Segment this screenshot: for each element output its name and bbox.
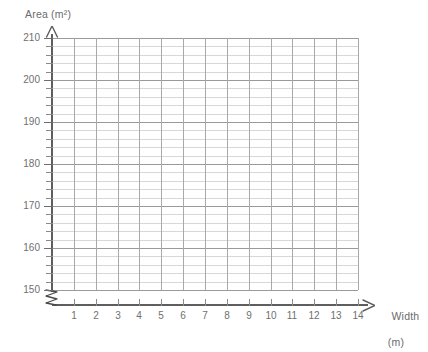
y-tick-minor xyxy=(46,265,53,266)
y-tick-minor xyxy=(46,72,53,73)
x-tick xyxy=(205,299,206,306)
y-tick-major xyxy=(44,248,53,249)
x-tick-label: 7 xyxy=(195,310,215,321)
x-axis-unit-text: (m) xyxy=(379,336,413,349)
x-axis-title-text: Width xyxy=(391,310,419,322)
y-tick-minor xyxy=(46,181,53,182)
y-tick-minor xyxy=(46,88,53,89)
y-tick-minor xyxy=(46,256,53,257)
x-tick-label: 12 xyxy=(304,310,324,321)
x-tick xyxy=(314,299,315,306)
plot-area xyxy=(52,38,358,290)
gridline-vertical xyxy=(314,38,315,290)
y-tick-label: 170 xyxy=(14,200,40,211)
gridline-vertical xyxy=(358,38,359,290)
x-tick xyxy=(118,299,119,306)
x-tick-label: 3 xyxy=(108,310,128,321)
gridline-vertical xyxy=(336,38,337,290)
y-tick-minor xyxy=(46,273,53,274)
gridline-horizontal-major xyxy=(52,290,358,291)
y-tick-minor xyxy=(46,189,53,190)
x-tick xyxy=(161,299,162,306)
y-tick-label: 160 xyxy=(14,242,40,253)
x-tick-label: 10 xyxy=(261,310,281,321)
axis-break-icon xyxy=(40,288,62,308)
y-tick-minor xyxy=(46,223,53,224)
gridline-vertical xyxy=(74,38,75,290)
y-tick-label: 180 xyxy=(14,158,40,169)
y-tick-minor xyxy=(46,63,53,64)
x-tick-label: 14 xyxy=(348,310,368,321)
y-tick-minor xyxy=(46,172,53,173)
x-axis-title: Width (m) xyxy=(379,297,419,352)
gridline-vertical xyxy=(161,38,162,290)
y-axis-title: Area (m²) xyxy=(25,8,71,20)
x-tick-label: 5 xyxy=(151,310,171,321)
y-tick-label: 190 xyxy=(14,116,40,127)
y-tick-minor xyxy=(46,97,53,98)
x-tick xyxy=(249,299,250,306)
y-tick-minor xyxy=(46,139,53,140)
x-tick-label: 2 xyxy=(86,310,106,321)
y-tick-major xyxy=(44,290,53,291)
y-tick-minor xyxy=(46,46,53,47)
y-tick-minor xyxy=(46,240,53,241)
y-tick-major xyxy=(44,38,53,39)
x-tick-label: 13 xyxy=(326,310,346,321)
gridline-vertical xyxy=(96,38,97,290)
y-tick-major xyxy=(44,122,53,123)
gridline-vertical xyxy=(118,38,119,290)
y-tick-major xyxy=(44,80,53,81)
x-tick xyxy=(74,299,75,306)
x-tick xyxy=(292,299,293,306)
y-tick-minor xyxy=(46,105,53,106)
gridline-vertical xyxy=(227,38,228,290)
y-tick-minor xyxy=(46,55,53,56)
y-tick-minor xyxy=(46,114,53,115)
y-tick-major xyxy=(44,164,53,165)
y-tick-minor xyxy=(46,147,53,148)
y-tick-minor xyxy=(46,231,53,232)
y-tick-major xyxy=(44,206,53,207)
gridline-vertical xyxy=(183,38,184,290)
x-tick xyxy=(96,299,97,306)
x-tick xyxy=(336,299,337,306)
x-tick xyxy=(183,299,184,306)
x-axis-line xyxy=(52,304,368,306)
x-tick-label: 1 xyxy=(64,310,84,321)
x-tick xyxy=(358,299,359,306)
y-tick-minor xyxy=(46,156,53,157)
y-tick-label: 210 xyxy=(14,32,40,43)
y-axis-arrow-icon xyxy=(45,26,59,38)
y-tick-minor xyxy=(46,130,53,131)
y-tick-minor xyxy=(46,214,53,215)
x-tick-label: 4 xyxy=(129,310,149,321)
y-tick-minor xyxy=(46,282,53,283)
y-tick-label: 200 xyxy=(14,74,40,85)
x-tick-label: 9 xyxy=(239,310,259,321)
x-tick xyxy=(139,299,140,306)
x-tick-label: 11 xyxy=(282,310,302,321)
x-tick-label: 6 xyxy=(173,310,193,321)
gridline-vertical xyxy=(271,38,272,290)
x-tick xyxy=(227,299,228,306)
x-tick-label: 8 xyxy=(217,310,237,321)
gridline-vertical xyxy=(139,38,140,290)
y-tick-label: 150 xyxy=(14,284,40,295)
x-tick xyxy=(271,299,272,306)
gridline-vertical xyxy=(292,38,293,290)
y-tick-minor xyxy=(46,198,53,199)
gridline-vertical xyxy=(205,38,206,290)
gridline-vertical xyxy=(249,38,250,290)
